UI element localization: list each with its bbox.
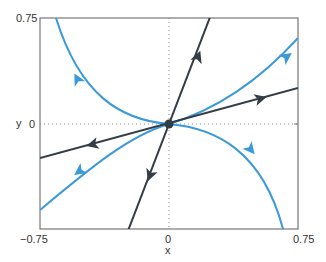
- x-tick-right: 0.75: [293, 233, 314, 245]
- y-tick-top: 0.75: [16, 12, 37, 24]
- x-axis-label: x: [165, 244, 171, 256]
- phase-portrait: [0, 0, 326, 262]
- arrow-icon: [253, 91, 268, 106]
- y-axis-label: y: [16, 117, 22, 129]
- arrow-icon: [69, 71, 85, 87]
- y-tick-zero: 0: [29, 118, 35, 130]
- fixed-point: [165, 120, 174, 129]
- x-tick-left: −0.75: [20, 233, 48, 245]
- arrow-icon: [142, 168, 158, 184]
